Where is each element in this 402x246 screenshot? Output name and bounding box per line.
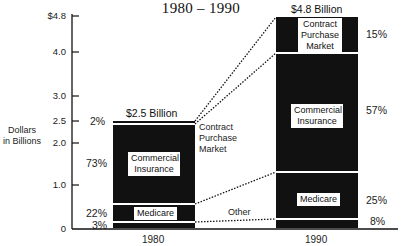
segment-label-line: Commercial [131, 153, 177, 164]
annotation-other: Other [228, 207, 251, 218]
connector-lines [195, 17, 276, 222]
x-label-1990: 1990 [305, 234, 327, 245]
medicare-label-1980: Medicare [134, 207, 177, 220]
y-tick-label: $4.8 [28, 10, 66, 21]
pct-contract-1980: 2% [90, 115, 105, 127]
contract-label-1990: Contract Purchase Market [298, 18, 342, 53]
pct-contract-1990: 15% [366, 28, 387, 40]
y-ticks [72, 16, 79, 185]
annotation-contract-purchase-market: Contract Purchase Market [199, 122, 237, 155]
commercial-label-1980: Commercial Insurance [128, 152, 180, 176]
pct-medicare-1980: 22% [86, 207, 107, 219]
segment-label-line: Contract [301, 19, 339, 30]
annotation-line: Purchase [199, 133, 237, 144]
y-tick-label: 4.0 [28, 46, 66, 57]
pct-commercial-1990: 57% [366, 104, 387, 116]
segment-label-line: Insurance [294, 116, 340, 127]
segment-other-1990 [276, 220, 358, 228]
y-tick-label: 1.0 [28, 179, 66, 190]
x-label-1980: 1980 [142, 234, 164, 245]
segment-other-1980 [113, 223, 195, 228]
segment-label-line: Commercial [294, 105, 340, 116]
pct-medicare-1990: 25% [366, 194, 387, 206]
segment-label-line: Purchase [301, 30, 339, 41]
y-tick-label: 0 [28, 223, 66, 234]
medicare-label-1990: Medicare [297, 193, 340, 206]
y-tick-label: 2.5 [28, 115, 66, 126]
pct-commercial-1980: 73% [86, 157, 107, 169]
pct-other-1980: 3% [92, 219, 107, 231]
y-tick-label: 3.0 [28, 90, 66, 101]
segment-label-line: Insurance [131, 164, 177, 175]
total-label-1990: $4.8 Billion [291, 3, 342, 15]
segment-contract-1980 [113, 121, 195, 123]
pct-other-1990: 8% [370, 215, 385, 227]
annotation-line: Contract [199, 122, 237, 133]
annotation-line: Market [199, 144, 237, 155]
commercial-label-1990: Commercial Insurance [291, 104, 343, 128]
segment-label-line: Market [301, 41, 339, 52]
y-tick-label: 2.0 [28, 137, 66, 148]
total-label-1980: $2.5 Billion [126, 107, 177, 119]
